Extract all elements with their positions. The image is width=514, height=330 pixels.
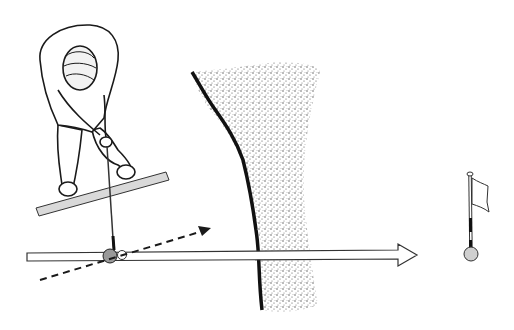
cup: [464, 247, 478, 261]
target-line-arrow: [27, 244, 417, 266]
illustration-svg: [0, 0, 514, 330]
alignment-stick: [36, 172, 169, 216]
golfer-top-down: [40, 25, 135, 196]
pin-flag: [467, 172, 489, 254]
club-head: [103, 249, 117, 263]
sand-bunker: [192, 62, 320, 312]
golf-illustration: Golfer addressing ball aligned to target…: [0, 0, 514, 330]
